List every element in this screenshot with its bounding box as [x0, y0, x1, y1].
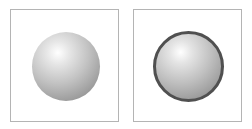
ringed-sphere-icon: [153, 31, 224, 102]
sphere-panel-right: [133, 9, 242, 122]
plain-sphere-icon: [32, 32, 100, 101]
sphere-panel-left: [10, 9, 119, 122]
